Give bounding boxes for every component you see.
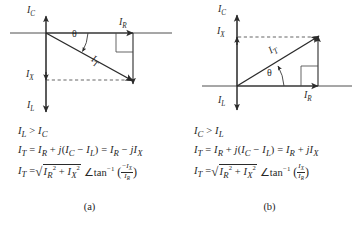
label-ic-a: IC [27, 4, 35, 18]
label-ic-b: IC [218, 3, 226, 17]
equation-condition-a: IL > IC [18, 126, 180, 139]
phasor-svg-b [180, 0, 359, 118]
equations-a: IL > IC IT = IR + j(IC − IL) = IR − jIX … [18, 126, 180, 181]
label-ir-a: IR [119, 16, 127, 30]
equation-rectangular-b: IT = IR + j(IC − IL) = IR + jIX [194, 145, 356, 158]
label-ir-b: IR [304, 89, 312, 103]
it-phasor-a [46, 33, 133, 81]
right-angle-marker-a [116, 33, 133, 52]
theta-arc-b [278, 66, 284, 86]
label-ix-b: IX [217, 25, 225, 39]
phasor-diagram-a: IC IL IX IR IT θ [0, 0, 179, 118]
label-theta-a: θ [72, 28, 77, 39]
label-il-a: IL [27, 99, 34, 113]
equations-b: IC > IL IT = IR + j(IC − IL) = IR + jIX … [194, 126, 356, 181]
equation-polar-a: IT = √IR2 + IX2 ∠tan−1 ( −IX IR ) [18, 163, 180, 182]
panel-b: IC IX IL IR IT θ IC > IL IT = IR + j(IC … [180, 0, 359, 233]
equation-condition-b: IC > IL [194, 126, 356, 139]
phasor-diagram-b: IC IX IL IR IT θ [180, 0, 359, 118]
phasor-diagram-figure: IC IL IX IR IT θ IL > IC IT = IR + j(IC … [0, 0, 359, 233]
it-phasor-b [237, 36, 319, 86]
caption-a: (a) [0, 201, 179, 212]
panel-a: IC IL IX IR IT θ IL > IC IT = IR + j(IC … [0, 0, 179, 233]
caption-b: (b) [180, 201, 359, 212]
label-ix-a: IX [26, 68, 34, 82]
equation-polar-b: IT = √IR2 + IX2 ∠tan−1 ( IX IR ) [194, 163, 356, 182]
label-il-b: IL [218, 94, 225, 108]
theta-arc-a [83, 33, 89, 52]
right-angle-marker-b [301, 66, 318, 86]
label-theta-b: θ [267, 67, 272, 78]
equation-rectangular-a: IT = IR + j(IC − IL) = IR − jIX [18, 145, 180, 158]
